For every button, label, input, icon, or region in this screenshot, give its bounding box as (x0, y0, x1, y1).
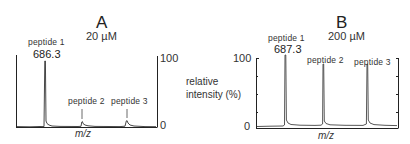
panel-a-ytick-0: 0 (160, 120, 166, 131)
panel-b-peak1-mass: 687.3 (274, 44, 302, 55)
panel-b-axes (256, 58, 399, 129)
panel-b-ytick-0: 0 (244, 121, 250, 132)
panel-a-peak3-label: peptide 3 (111, 97, 148, 106)
panel-b-ylabel-line1: relative (186, 76, 218, 88)
panel-a-concentration: 20 µM (86, 31, 117, 42)
panel-b-peak1-label: peptide 1 (268, 34, 305, 43)
spectra-graphics (0, 0, 410, 144)
panel-a-peak1-mass: 686.3 (33, 49, 61, 60)
panel-a-xlabel: m/z (75, 129, 91, 139)
panel-a-title: A (96, 14, 107, 31)
panel-b-concentration: 200 µM (328, 31, 365, 42)
panel-b-title: B (336, 14, 347, 31)
panel-a-peak1-label: peptide 1 (28, 38, 65, 47)
panel-b-ytick-100: 100 (233, 53, 251, 64)
panel-b-peak2-label: peptide 2 (307, 56, 344, 65)
panel-b-ylabel-line2: intensity (%) (186, 89, 241, 101)
panel-a-peak2-label: peptide 2 (68, 97, 105, 106)
panel-a-spectrum (17, 61, 156, 127)
panel-a-axes (16, 55, 158, 128)
panel-b-xlabel: m/z (318, 131, 334, 141)
panel-b-peak3-label: peptide 3 (354, 58, 391, 67)
panel-a-ytick-100: 100 (160, 53, 178, 64)
